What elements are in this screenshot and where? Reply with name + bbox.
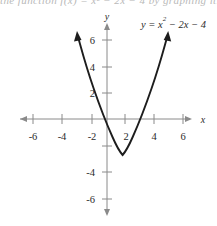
coordinate-plane-svg: -6 -4 -2 2 4 6 x 6 4 2 -4 -6 y [0,0,217,226]
x-tick-label-4: 4 [151,131,157,142]
cutoff-header-text: the function f(x) = x² − 2x − 4 by graph… [0,0,217,6]
equation-lhs: y = x [140,19,163,30]
y-tick-label-4: 4 [90,62,96,73]
x-axis-name-label: x [200,114,206,125]
y-tick-label--4: -4 [86,167,95,178]
x-tick-label--2: -2 [88,131,97,142]
x-tick-label--4: -4 [58,131,67,142]
x-tick-label-6: 6 [180,131,185,142]
parabola-left-arrow-icon [74,31,82,42]
y-axis: 6 4 2 -4 -6 y [86,11,112,216]
y-axis-top-arrow-icon [104,23,110,30]
x-axis-right-arrow-icon [185,116,192,122]
y-axis-name-label: y [104,11,110,22]
y-tick-label-6: 6 [90,35,95,46]
y-tick-label--6: -6 [86,194,95,205]
x-tick-label--6: -6 [29,131,38,142]
parabola-right-arrow-icon [164,31,172,42]
x-axis-left-arrow-icon [20,116,27,122]
x-tick-label-2: 2 [123,131,128,142]
equation-label: y = x2 − 2x − 4 [140,15,207,31]
equation-rhs: − 2x − 4 [166,19,207,30]
graph-figure: the function f(x) = x² − 2x − 4 by graph… [0,0,217,226]
y-axis-bottom-arrow-icon [104,209,110,216]
